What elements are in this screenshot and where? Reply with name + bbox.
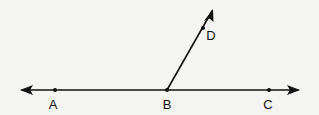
label-b: B [163, 98, 172, 111]
geometry-diagram: A B C D [0, 0, 319, 115]
ray-bd [167, 11, 212, 90]
point-c [267, 88, 271, 92]
point-b [165, 88, 169, 92]
point-a [53, 88, 57, 92]
label-a: A [49, 98, 58, 111]
label-c: C [263, 98, 272, 111]
ray-arrowhead-icon [204, 9, 214, 22]
label-d: D [206, 29, 215, 42]
point-d [201, 26, 205, 30]
